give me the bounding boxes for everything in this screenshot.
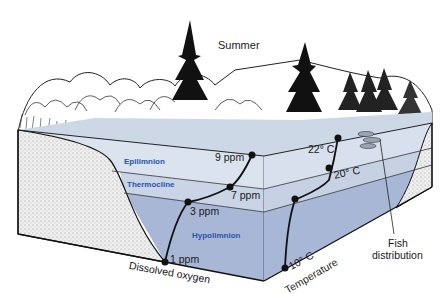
oxygen-point-9ppm [249,152,256,159]
temperature-point-22c [335,135,342,142]
fish-label-line1: Fish [388,238,408,249]
temperature-point-mid [292,196,299,203]
thermocline-label: Thermocline [127,181,175,189]
season-title: Summer [218,40,260,51]
hypolimnion-label: Hypolimnion [192,232,240,240]
oxygen-value-9ppm: 9 ppm [215,152,244,163]
lake-stratification-diagram: Summer Epilimnion Thermocline Hypolimnio… [0,0,448,294]
temperature-point-20c [326,165,333,172]
oxygen-value-3ppm: 3 ppm [190,206,219,217]
oxygen-value-1ppm: 1 ppm [170,254,199,265]
epilimnion-label: Epilimnion [124,158,165,166]
temperature-point-10c [282,265,289,272]
fish-label-line2: distribution [372,250,423,261]
oxygen-value-7ppm: 7 ppm [231,190,260,201]
temperature-value-22c: 22° C [308,144,334,155]
